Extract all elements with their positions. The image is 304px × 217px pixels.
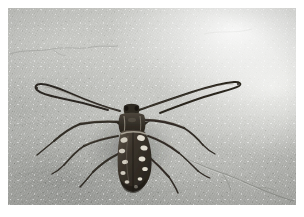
photo-contents (8, 8, 296, 205)
right-antenna (139, 82, 240, 113)
left-antenna (36, 84, 120, 111)
lower-right-crack (184, 158, 294, 201)
beetle-photograph (8, 8, 296, 205)
elytra (118, 130, 152, 193)
upper-crack (10, 46, 118, 56)
photo-frame (0, 0, 304, 217)
